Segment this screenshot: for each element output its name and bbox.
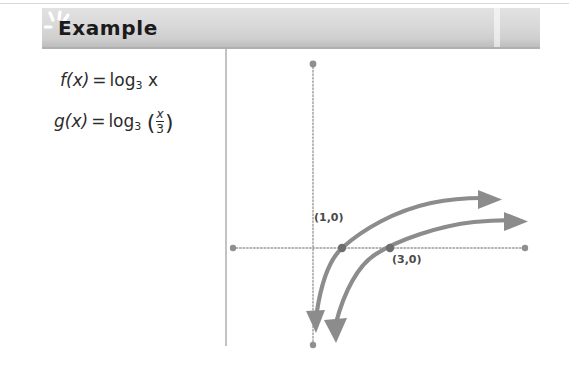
formula-g-log: log [108, 111, 134, 131]
formula-g-name: g [54, 111, 65, 131]
formula-g-close-paren: ) [165, 110, 174, 135]
slide-canvas: Example f(x)=log3 x g(x)=log3 (x3) [0, 0, 569, 379]
header-band-highlight [494, 8, 500, 47]
formula-g-open-paren: ( [147, 110, 156, 135]
point-label-1-0: (1,0) [314, 211, 344, 224]
formula-g-base: 3 [134, 120, 141, 133]
formula-f-argument: x [148, 70, 158, 90]
point-1-0 [338, 244, 346, 252]
top-rule-divider [0, 3, 569, 4]
formula-f: f(x)=log3 x [60, 70, 158, 92]
point-3-0 [386, 244, 394, 252]
logarithm-graph [226, 49, 569, 379]
formula-f-base: 3 [136, 79, 143, 92]
formula-g-fraction: x3 [156, 108, 164, 135]
formula-g-denominator: 3 [156, 123, 164, 135]
curve-g [324, 212, 528, 343]
formula-f-log: log [110, 70, 136, 90]
formula-g: g(x)=log3 (x3) [54, 108, 174, 135]
formula-f-equals: = [92, 70, 106, 90]
graph-pane: (1,0) (3,0) [226, 49, 569, 379]
point-label-3-0: (3,0) [392, 253, 422, 266]
formula-list: f(x)=log3 x g(x)=log3 (x3) [44, 56, 219, 156]
formula-g-equals: = [91, 111, 105, 131]
formula-g-arg: (x) [65, 111, 88, 131]
page-title: Example [58, 16, 158, 40]
formula-g-numerator: x [156, 108, 164, 120]
y-axis [310, 61, 317, 349]
formula-f-arg: (x) [66, 70, 89, 90]
